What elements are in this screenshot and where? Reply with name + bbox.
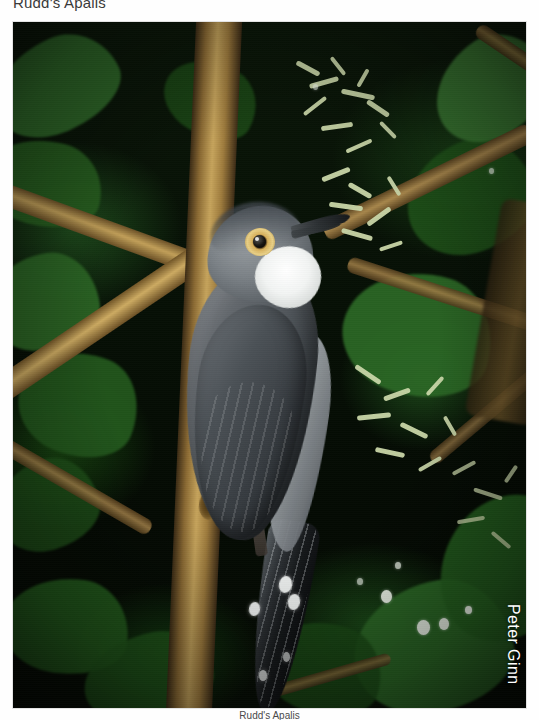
water-drop [465,606,472,614]
bird-subject [163,182,393,708]
water-drop [489,168,494,174]
photo-credit: Peter Ginn [504,604,522,684]
water-drop [417,620,430,635]
water-drop [395,562,401,569]
bird-photograph: Peter Ginn [13,22,526,708]
water-drop [439,618,449,630]
guide-page: Rudd's Apalis [0,0,539,720]
tail-tip-white [283,652,290,662]
figure-caption: Rudd's Apalis [0,710,539,720]
bird-eye-glint [255,237,259,241]
water-drop [313,84,318,90]
page-title: Rudd's Apalis [13,0,106,12]
tail-tip-white [259,670,267,681]
